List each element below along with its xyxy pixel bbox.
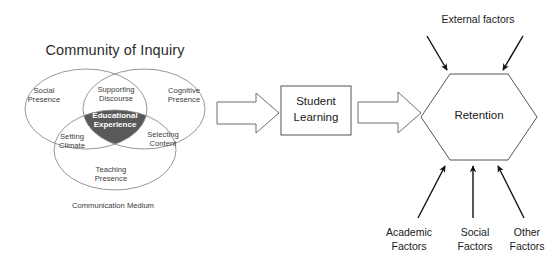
block-arrow-1 — [217, 93, 279, 133]
external-factor-arrows — [427, 36, 523, 70]
social-factors-label: Social Factors — [448, 226, 502, 254]
bottom-factor-arrows — [418, 166, 524, 218]
academic-factors-arrow — [418, 166, 445, 218]
venn-label-teaching-presence: Teaching Presence — [84, 166, 138, 184]
block-arrow-2 — [358, 92, 421, 133]
external-arrow-right — [503, 36, 523, 70]
venn-label-setting-climate: Setting Climate — [48, 133, 96, 151]
other-factors-label: Other Factors — [501, 226, 553, 254]
venn-label-selecting-content: Selecting Content — [138, 131, 188, 149]
student-learning-label: Student Learning — [281, 94, 351, 125]
communication-medium-caption: Communication Medium — [48, 202, 178, 211]
diagram-canvas: Community of Inquiry Social Presence Cog… — [0, 0, 553, 260]
venn-label-supporting-discourse: Supporting Discourse — [86, 86, 146, 104]
community-of-inquiry-title: Community of Inquiry — [30, 42, 200, 59]
external-factors-label: External factors — [424, 13, 532, 25]
other-factors-arrow — [498, 166, 524, 218]
venn-label-social-presence: Social Presence — [18, 87, 70, 105]
academic-factors-label: Academic Factors — [372, 226, 446, 254]
venn-label-cognitive-presence: Cognitive Presence — [156, 87, 212, 105]
external-arrow-left — [427, 36, 447, 70]
retention-label: Retention — [441, 109, 517, 123]
venn-label-educational-experience: Educational Experience — [82, 112, 148, 130]
diagram-graphics — [0, 0, 553, 260]
